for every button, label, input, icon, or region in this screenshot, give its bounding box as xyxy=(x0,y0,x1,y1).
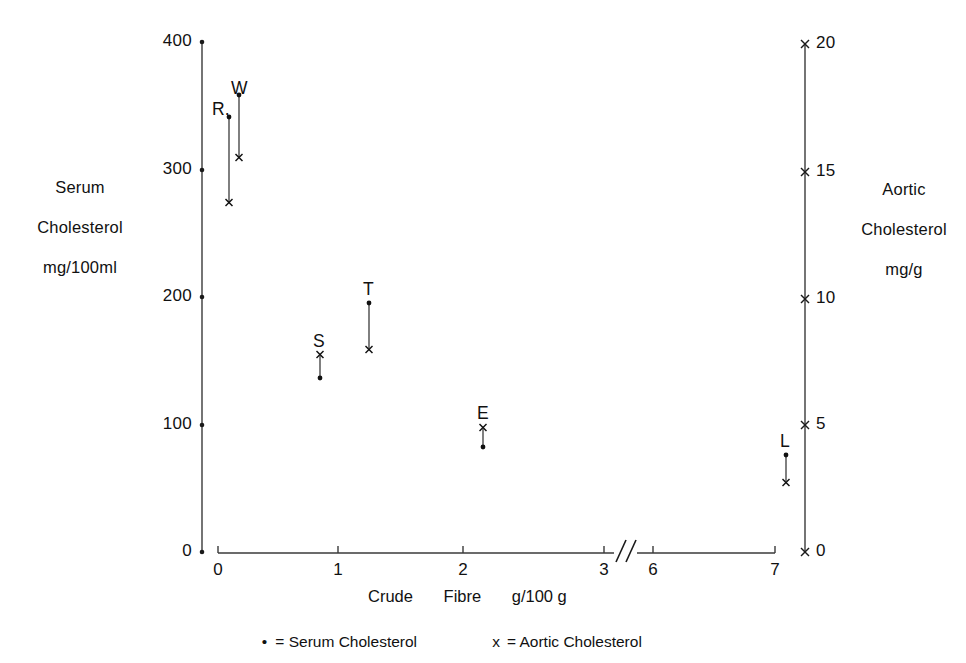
left-ytick-label-200: 200 xyxy=(140,286,192,306)
left-y-axis xyxy=(200,40,205,555)
left-ytick-label-0: 0 xyxy=(140,541,192,561)
datapoint-R xyxy=(226,115,233,206)
x-tick-label-2: 2 xyxy=(447,560,479,580)
legend-equals-serum: = xyxy=(275,633,284,650)
legend-label-serum: Serum Cholesterol xyxy=(289,633,417,650)
serum-dot-icon: • xyxy=(258,633,271,651)
left-tick-0 xyxy=(200,550,205,555)
x-axis xyxy=(218,540,775,562)
left-axis-title: Serum Cholesterol mg/100ml xyxy=(22,178,138,298)
serum-marker-T xyxy=(367,301,372,306)
datapoint-T xyxy=(366,301,373,353)
legend-item-aortic: x = Aortic Cholesterol xyxy=(490,633,642,651)
datapoint-S xyxy=(317,351,324,380)
point-label-R: R. xyxy=(212,99,230,120)
right-axis-title-line-3: mg/g xyxy=(846,260,962,279)
left-axis-title-line-2: Cholesterol xyxy=(22,218,138,237)
right-axis-title: Aortic Cholesterol mg/g xyxy=(846,180,962,300)
left-tick-400 xyxy=(200,40,205,45)
point-label-L: L xyxy=(780,431,790,452)
legend-item-serum: • = Serum Cholesterol xyxy=(258,633,417,651)
right-y-axis xyxy=(801,40,809,556)
right-ytick-label-15: 15 xyxy=(816,161,836,181)
x-tick-label-3: 3 xyxy=(588,560,620,580)
x-axis-break-icon xyxy=(616,540,636,562)
point-label-S: S xyxy=(313,331,325,352)
chart-figure: 400 300 200 100 0 20 15 10 5 0 0 1 2 3 6… xyxy=(0,0,966,663)
datapoint-W xyxy=(236,93,243,161)
left-ytick-label-100: 100 xyxy=(140,414,192,434)
x-tick-label-7: 7 xyxy=(759,560,791,580)
point-label-W: W xyxy=(231,78,248,99)
serum-marker-L xyxy=(784,453,789,458)
right-ytick-label-20: 20 xyxy=(816,33,836,53)
x-axis-title: Crude Fibre g/100 g xyxy=(368,587,567,606)
point-label-E: E xyxy=(477,403,489,424)
point-label-T: T xyxy=(363,279,374,300)
x-tick-label-1: 1 xyxy=(322,560,354,580)
x-axis-title-part-1: Crude xyxy=(368,587,413,605)
chart-plot-svg xyxy=(0,0,966,663)
left-tick-200 xyxy=(200,295,205,300)
x-tick-label-6: 6 xyxy=(637,560,669,580)
left-tick-300 xyxy=(200,168,205,173)
left-ytick-label-300: 300 xyxy=(140,159,192,179)
right-ytick-label-5: 5 xyxy=(816,414,826,434)
chart-legend: • = Serum Cholesterol x = Aortic Cholest… xyxy=(258,633,642,651)
left-axis-title-line-3: mg/100ml xyxy=(22,258,138,277)
legend-label-aortic: Aortic Cholesterol xyxy=(520,633,642,650)
left-tick-100 xyxy=(200,423,205,428)
serum-marker-E xyxy=(481,445,486,450)
datapoint-E xyxy=(480,424,487,449)
serum-marker-S xyxy=(318,376,323,381)
x-axis-title-part-3: g/100 g xyxy=(512,587,567,605)
x-axis-title-part-2: Fibre xyxy=(444,587,482,605)
x-tick-label-0: 0 xyxy=(202,560,234,580)
aortic-x-icon: x xyxy=(490,633,503,651)
legend-equals-aortic: = xyxy=(507,633,516,650)
left-ytick-label-400: 400 xyxy=(140,31,192,51)
right-ytick-label-10: 10 xyxy=(816,288,836,308)
right-axis-title-line-1: Aortic xyxy=(846,180,962,199)
right-ytick-label-0: 0 xyxy=(816,541,826,561)
right-axis-title-line-2: Cholesterol xyxy=(846,220,962,239)
datapoint-L xyxy=(783,453,790,486)
left-axis-title-line-1: Serum xyxy=(22,178,138,197)
